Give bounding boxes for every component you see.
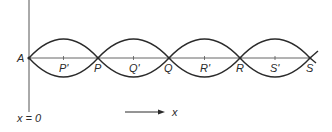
node-dot-r [239, 57, 242, 60]
x-direction-arrow [125, 110, 165, 115]
node-label-s: S [306, 63, 313, 74]
arrowhead-icon [158, 110, 165, 115]
x-direction-label: x [172, 107, 178, 118]
loop-1-upper [29, 39, 98, 58]
antinode-label-s-prime: S' [270, 63, 279, 74]
antinode-label-p-prime: P' [59, 63, 68, 74]
antinode-label-r-prime: R' [200, 63, 210, 74]
node-label-a: A [17, 53, 24, 64]
node-label-r: R [236, 63, 244, 74]
node-dot-a [27, 56, 30, 59]
node-dot-p [97, 57, 100, 60]
end-overshoot-upper [310, 51, 318, 58]
loop-2-upper [98, 39, 169, 58]
origin-label: x = 0 [17, 113, 41, 124]
node-dot-s [309, 57, 312, 60]
loop-4-upper [240, 39, 310, 58]
node-label-p: P [94, 63, 101, 74]
node-label-q: Q [164, 63, 173, 74]
node-dot-q [168, 57, 171, 60]
antinode-label-q-prime: Q' [129, 63, 140, 74]
loop-3-upper [169, 39, 240, 58]
